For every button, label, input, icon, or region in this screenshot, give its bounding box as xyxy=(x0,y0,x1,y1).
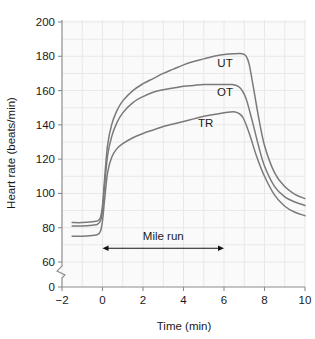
y-tick-label-140: 140 xyxy=(36,119,55,131)
annotation-label-mile-run: Mile run xyxy=(143,230,184,242)
heart-rate-line-chart: UTOTTR Mile run 06080100120140160180200 … xyxy=(0,0,315,339)
x-tick-label--2: −2 xyxy=(55,294,68,306)
x-tick-label-0: 0 xyxy=(99,294,105,306)
y-tick-label-80: 80 xyxy=(42,222,55,234)
y-tick-label-0: 0 xyxy=(49,281,55,293)
x-tick-label-8: 8 xyxy=(261,294,267,306)
y-tick-label-200: 200 xyxy=(36,16,55,28)
y-tick-label-160: 160 xyxy=(36,85,55,97)
y-tick-label-120: 120 xyxy=(36,153,55,165)
series-label-ot: OT xyxy=(217,86,233,98)
x-tick-label-6: 6 xyxy=(221,294,227,306)
x-tick-label-4: 4 xyxy=(180,294,187,306)
x-tick-label-2: 2 xyxy=(140,294,146,306)
y-tick-label-100: 100 xyxy=(36,187,55,199)
y-axis-title: Heart rate (beats/min) xyxy=(5,97,17,209)
series-label-ut: UT xyxy=(217,57,232,69)
chart-figure: UTOTTR Mile run 06080100120140160180200 … xyxy=(0,0,315,339)
x-axis-title: Time (min) xyxy=(157,320,212,332)
series-label-tr: TR xyxy=(198,117,213,129)
y-tick-label-180: 180 xyxy=(36,50,55,62)
y-tick-label-60: 60 xyxy=(42,256,55,268)
x-tick-label-10: 10 xyxy=(299,294,312,306)
